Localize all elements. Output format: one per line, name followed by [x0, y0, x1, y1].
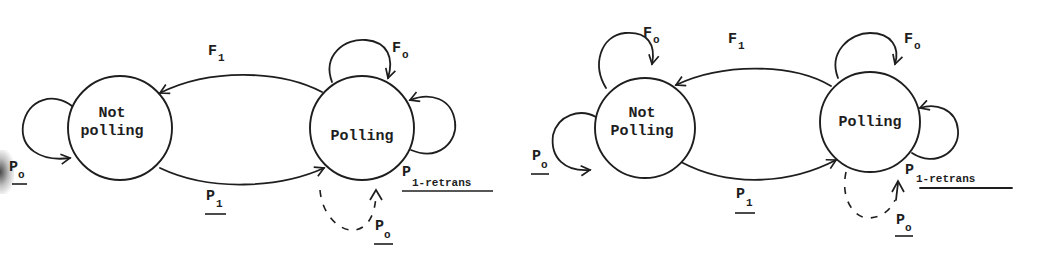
- right-p1-retrans-label: P 1-retrans: [905, 162, 975, 185]
- svg-text:P: P: [736, 186, 745, 203]
- svg-text:1: 1: [746, 197, 753, 209]
- svg-text:P: P: [9, 159, 18, 176]
- state-diagram-figure: Not polling Polling F 1 P 1 P o F: [0, 0, 1054, 275]
- left-dashed-arrowhead-icon: [370, 190, 382, 200]
- right-diagram: Not Polling Polling F o P o F 1 P 1: [531, 25, 1012, 236]
- svg-text:F: F: [643, 25, 652, 42]
- right-po-dashed-label: P o: [895, 212, 913, 236]
- svg-text:P: P: [206, 188, 215, 205]
- right-f1-label: F 1: [728, 31, 745, 52]
- left-f1-label: F 1: [208, 43, 225, 64]
- right-p1-label: P 1: [735, 186, 755, 213]
- left-polling-label: Polling: [330, 128, 393, 145]
- left-not-polling-label-line2: polling: [80, 123, 143, 140]
- svg-text:F: F: [392, 40, 401, 57]
- svg-text:o: o: [541, 159, 548, 171]
- svg-text:P: P: [402, 164, 411, 181]
- right-po-not-polling-loop: [553, 113, 596, 170]
- right-not-polling-label-line2: Polling: [610, 123, 673, 140]
- svg-text:o: o: [914, 40, 921, 52]
- right-fo-not-polling-label: F o: [643, 25, 660, 46]
- svg-text:F: F: [728, 31, 737, 48]
- left-p1-retrans-label: P 1-retrans: [402, 164, 493, 191]
- left-p1-edge: [160, 168, 324, 185]
- right-polling-label: Polling: [838, 114, 901, 131]
- right-po-dashed-loop: [845, 172, 895, 218]
- right-f1-edge: [676, 69, 831, 86]
- left-po-not-polling-label: P o: [9, 159, 27, 184]
- left-fo-polling-label: F o: [392, 40, 409, 61]
- svg-text:P: P: [905, 162, 914, 179]
- svg-text:1-retrans: 1-retrans: [412, 177, 471, 189]
- svg-text:F: F: [208, 43, 217, 60]
- svg-text:P: P: [532, 148, 541, 165]
- svg-text:1: 1: [216, 198, 223, 210]
- svg-text:1-retrans: 1-retrans: [916, 173, 975, 185]
- svg-text:o: o: [653, 34, 660, 46]
- right-p1-edge: [681, 160, 836, 180]
- left-po-self-loop: [23, 99, 72, 159]
- diagram-svg: Not polling Polling F 1 P 1 P o F: [0, 0, 1054, 275]
- svg-text:1: 1: [218, 52, 225, 64]
- svg-text:P: P: [896, 212, 905, 229]
- left-diagram: Not polling Polling F 1 P 1 P o F: [9, 40, 493, 244]
- svg-text:F: F: [904, 31, 913, 48]
- left-po-dashed-label: P o: [374, 218, 393, 244]
- right-fo-polling-label: F o: [904, 31, 921, 52]
- left-p1-retrans-self-loop: [410, 97, 455, 154]
- svg-text:P: P: [375, 218, 384, 235]
- svg-text:o: o: [18, 169, 25, 181]
- svg-text:o: o: [905, 222, 912, 234]
- left-po-dashed-loop: [320, 190, 376, 230]
- svg-text:1: 1: [738, 40, 745, 52]
- right-po-not-polling-label: P o: [531, 148, 549, 174]
- left-not-polling-label-line1: Not: [98, 105, 125, 122]
- right-not-polling-label-line1: Not: [628, 105, 655, 122]
- left-f1-edge: [160, 75, 322, 93]
- left-p1-label: P 1: [205, 188, 226, 214]
- svg-text:o: o: [384, 229, 391, 241]
- svg-text:o: o: [402, 49, 409, 61]
